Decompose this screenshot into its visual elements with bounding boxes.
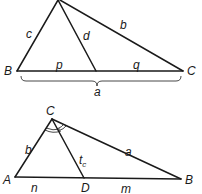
- side-b-line: [15, 119, 52, 177]
- segment-q-label: q: [133, 58, 140, 72]
- point-d-label: D: [81, 181, 90, 194]
- vertex-b-label: B: [4, 64, 12, 78]
- side-c-line: [17, 0, 58, 71]
- segment-m-label: m: [121, 182, 131, 194]
- side-b-label: b: [25, 143, 32, 157]
- bisector-tc-label: tc: [79, 153, 86, 169]
- side-a-line: [52, 119, 181, 179]
- vertex-c-label: C: [187, 64, 196, 78]
- side-b-line: [60, 0, 183, 71]
- side-c-label: c: [26, 27, 32, 41]
- side-a-label: a: [125, 145, 132, 159]
- side-a-label: a: [94, 85, 101, 99]
- bisector-tc-line: [52, 119, 84, 178]
- segment-p-label: p: [55, 58, 63, 72]
- vertex-b-label: B: [185, 173, 193, 187]
- vertex-a-label: A: [2, 173, 11, 187]
- bisector-subscript-c: c: [82, 160, 86, 169]
- top-triangle: B C c d b p q a: [4, 0, 196, 99]
- angle-arc-right-inner: [57, 124, 64, 129]
- side-a-brace: [21, 76, 181, 86]
- diagram-canvas: B C c d b p q a C A B D b a tc n m: [0, 0, 202, 194]
- side-d-label: d: [83, 29, 90, 43]
- side-ab-line: [15, 177, 181, 179]
- segment-n-label: n: [31, 181, 38, 194]
- side-b-label: b: [120, 18, 127, 32]
- angle-arc-right-outer: [58, 126, 66, 131]
- bottom-triangle: C A B D b a tc n m: [2, 104, 193, 194]
- vertex-c-label: C: [46, 104, 55, 118]
